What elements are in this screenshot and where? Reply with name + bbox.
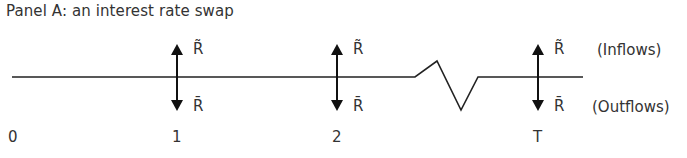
timeline-axis bbox=[12, 61, 583, 110]
outflow-label-2: R̄ bbox=[353, 97, 363, 115]
outflow-label-T: R̄ bbox=[554, 97, 564, 115]
tick-T: T bbox=[533, 128, 542, 146]
outflow-label-1: R̄ bbox=[193, 97, 203, 115]
outflows-label: (Outflows) bbox=[592, 98, 670, 116]
inflow-label-2: R̃ bbox=[353, 40, 363, 58]
cash-flow-timeline bbox=[0, 0, 687, 158]
tick-1: 1 bbox=[172, 128, 182, 146]
tick-0: 0 bbox=[8, 128, 18, 146]
inflow-label-T: R̃ bbox=[554, 40, 564, 58]
inflow-label-1: R̃ bbox=[193, 40, 203, 58]
inflows-label: (Inflows) bbox=[597, 41, 661, 59]
tick-2: 2 bbox=[332, 128, 342, 146]
